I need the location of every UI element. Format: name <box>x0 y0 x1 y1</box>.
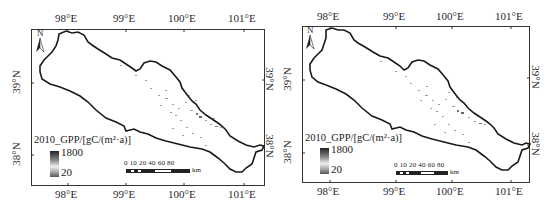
lat-label-right: 39°N <box>264 67 276 90</box>
lon-label-top: 98°E <box>55 12 77 24</box>
north-arrow-label: N <box>307 25 314 35</box>
lat-label-right: 38°N <box>264 134 276 157</box>
scale-bar-unit: km <box>192 166 201 174</box>
scale-bar-labels: 0 10 20 40 60 80 <box>394 161 444 169</box>
lon-label-top: 101°E <box>228 12 256 24</box>
lon-label-top: 100°E <box>168 12 196 24</box>
lat-label-right: 38°N <box>530 132 542 155</box>
legend-max: 1800 <box>61 146 83 158</box>
scale-bar <box>396 171 448 175</box>
lon-label-bottom: 99°E <box>113 188 135 200</box>
lat-label-left: 38°N <box>281 140 293 163</box>
map-panel-left: N 98°E 99°E 100°E 101°E 98°E 99°E 100°E … <box>0 0 280 207</box>
map-graphics <box>280 0 559 207</box>
lon-label-bottom: 101°E <box>228 188 256 200</box>
map-panel-right: N 98°E 99°E 100°E 101°E 98°E 99°E 100°E … <box>280 0 559 207</box>
lon-label-top: 101°E <box>495 10 523 22</box>
legend-title: 2010_GPP/[gC/(m²·a)] <box>305 132 402 143</box>
lat-label-right: 39°N <box>530 65 542 88</box>
lat-label-left: 39°N <box>281 67 293 90</box>
legend-max: 1800 <box>331 143 353 155</box>
legend-min: 20 <box>61 166 72 178</box>
lon-label-top: 99°E <box>383 10 405 22</box>
north-arrow-icon <box>306 35 314 49</box>
lon-label-bottom: 98°E <box>55 188 77 200</box>
scale-bar-labels: 0 10 20 40 60 80 <box>124 159 174 167</box>
legend-color-ramp <box>320 148 329 174</box>
lon-label-bottom: 100°E <box>168 188 196 200</box>
lat-label-left: 38°N <box>10 142 22 165</box>
lon-label-bottom: 98°E <box>317 185 339 197</box>
legend-min: 20 <box>331 163 342 175</box>
lon-label-top: 99°E <box>113 12 135 24</box>
lon-label-bottom: 99°E <box>383 185 405 197</box>
gpp-raster <box>380 61 486 143</box>
lat-label-left: 39°N <box>10 70 22 93</box>
north-arrow-label: N <box>37 28 44 38</box>
scale-bar-unit: km <box>450 168 459 176</box>
legend-color-ramp <box>50 151 59 177</box>
lon-label-bottom: 101°E <box>495 185 523 197</box>
legend-title: 2010_GPP/[gC/(m²·a)] <box>34 134 131 145</box>
lon-label-top: 98°E <box>317 10 339 22</box>
north-arrow-icon <box>36 38 44 52</box>
scale-bar <box>126 169 190 173</box>
gpp-raster <box>120 65 222 146</box>
lon-label-bottom: 100°E <box>436 185 464 197</box>
lon-label-top: 100°E <box>436 10 464 22</box>
